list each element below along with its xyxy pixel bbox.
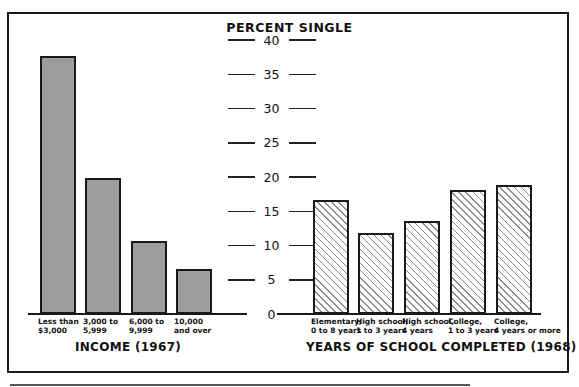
y-tick: 10: [224, 239, 319, 253]
tick-label: 20: [255, 170, 289, 185]
tick-dash: [289, 245, 316, 247]
income-bar: [40, 56, 76, 314]
tick-dash: [289, 211, 316, 213]
school-category-label: Elementary, 0 to 8 years: [311, 317, 362, 335]
school-bar: [358, 233, 394, 314]
y-tick: 25: [224, 136, 319, 150]
income-category-label: 10,000 and over: [174, 317, 211, 335]
income-bar: [85, 178, 121, 314]
school-bar: [450, 190, 486, 314]
tick-dash: [228, 279, 255, 281]
tick-dash: [289, 74, 316, 76]
income-category-label: 6,000 to 9,999: [129, 317, 164, 335]
tick-dash: [228, 74, 255, 76]
school-bar: [404, 221, 440, 314]
tick-dash: [289, 108, 316, 110]
income-chart-title: INCOME (1967): [75, 340, 181, 354]
tick-dash: [289, 142, 316, 144]
school-category-label: College, 1 to 3 years: [448, 317, 498, 335]
y-tick: 20: [224, 170, 319, 184]
tick-dash: [228, 108, 255, 110]
tick-dash: [289, 279, 316, 281]
school-category-label: College, 4 years or more: [494, 317, 561, 335]
page-rule: [10, 384, 470, 386]
tick-label: 5: [255, 272, 289, 287]
y-tick: 15: [224, 204, 319, 218]
school-bar: [313, 200, 349, 314]
income-category-label: 3,000 to 5,999: [83, 317, 118, 335]
tick-dash: [228, 176, 255, 178]
tick-dash: [228, 245, 255, 247]
tick-label: 25: [255, 135, 289, 150]
tick-dash: [228, 211, 255, 213]
tick-label: 10: [255, 238, 289, 253]
tick-dash: [289, 176, 316, 178]
y-tick: 35: [224, 67, 319, 81]
y-tick: 5: [224, 273, 319, 287]
income-category-label: Less than $3,000: [38, 317, 79, 335]
income-bar: [176, 269, 212, 314]
income-bar: [131, 241, 167, 314]
school-category-label: High school, 1 to 3 years: [356, 317, 408, 335]
tick-dash: [228, 142, 255, 144]
tick-dash: [228, 39, 255, 41]
tick-label: 35: [255, 67, 289, 82]
school-bar: [496, 185, 532, 314]
tick-label: 30: [255, 101, 289, 116]
school-category-label: High school, 4 years: [402, 317, 454, 335]
tick-label: 15: [255, 204, 289, 219]
school-chart-title: YEARS OF SCHOOL COMPLETED (1968): [306, 340, 577, 354]
tick-dash: [289, 39, 316, 41]
y-tick: 30: [224, 102, 319, 116]
y-tick: 40: [224, 33, 319, 47]
tick-label: 40: [255, 33, 289, 48]
